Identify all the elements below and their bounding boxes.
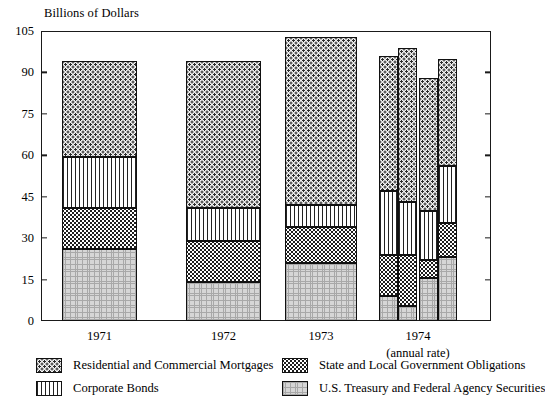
y-axis-tick-mark-right: [485, 155, 491, 156]
state-local-segment[interactable]: [438, 223, 457, 258]
y-axis-tick-label: 105: [0, 24, 34, 39]
y-axis-tick-mark-right: [485, 237, 491, 238]
y-axis-tick-mark: [41, 113, 47, 114]
stacked-bar[interactable]: [438, 31, 457, 321]
state-local-segment[interactable]: [62, 208, 137, 249]
y-axis-tick-label: 0: [0, 314, 34, 329]
y-axis-tick-mark: [41, 196, 47, 197]
state-local-swatch-icon: [282, 358, 308, 373]
y-axis-tick-label: 15: [0, 272, 34, 287]
y-axis-tick-mark: [41, 155, 47, 156]
legend-label-state-local: State and Local Government Obligations: [319, 358, 525, 373]
mortgages-segment[interactable]: [62, 61, 137, 156]
corporate-bonds-segment[interactable]: [419, 211, 438, 261]
treasury-segment[interactable]: [419, 278, 438, 321]
treasury-segment[interactable]: [379, 296, 398, 321]
stacked-bar[interactable]: [379, 31, 398, 321]
y-axis-tick-mark: [41, 72, 47, 73]
mortgages-segment[interactable]: [398, 48, 417, 203]
x-axis-label: 1971: [87, 329, 112, 344]
treasury-segment[interactable]: [285, 263, 357, 321]
state-local-segment[interactable]: [285, 227, 357, 263]
treasury-segment[interactable]: [186, 282, 261, 321]
state-local-segment[interactable]: [398, 255, 417, 306]
stacked-bar[interactable]: [285, 31, 357, 321]
mortgages-segment[interactable]: [186, 61, 261, 207]
y-axis-tick-label: 75: [0, 106, 34, 121]
stacked-bar[interactable]: [186, 31, 261, 321]
y-axis-title: Billions of Dollars: [44, 6, 139, 21]
x-axis-label: 1973: [309, 329, 334, 344]
mortgages-segment[interactable]: [379, 56, 398, 191]
corporate-bonds-segment[interactable]: [62, 157, 137, 208]
y-axis-tick-mark-right: [485, 196, 491, 197]
corporate-bonds-segment[interactable]: [186, 208, 261, 241]
y-axis-tick-mark: [41, 279, 47, 280]
x-axis-label: 1972: [211, 329, 236, 344]
y-axis-tick-mark: [41, 237, 47, 238]
treasury-segment[interactable]: [438, 257, 457, 321]
y-axis-tick-mark-right: [485, 113, 491, 114]
mortgages-segment[interactable]: [438, 59, 457, 167]
corporate-bonds-segment[interactable]: [379, 191, 398, 255]
legend-item-corporate[interactable]: Corporate Bonds: [36, 381, 159, 396]
mortgages-swatch-icon: [36, 358, 62, 373]
treasury-swatch-icon: [282, 381, 308, 396]
x-axis-label: 1974: [406, 329, 431, 344]
corporate-bonds-segment[interactable]: [438, 166, 457, 223]
legend-label-mortgages: Residential and Commercial Mortgages: [73, 358, 273, 373]
state-local-segment[interactable]: [186, 241, 261, 282]
legend-row-2: Corporate Bonds U.S. Treasury and Federa…: [36, 381, 496, 404]
corporate-swatch-icon: [36, 381, 62, 396]
legend-item-state-local[interactable]: State and Local Government Obligations: [282, 358, 525, 373]
legend-label-treasury: U.S. Treasury and Federal Agency Securit…: [319, 381, 545, 396]
y-axis-tick-label: 90: [0, 65, 34, 80]
stacked-bar[interactable]: [419, 31, 438, 321]
mortgages-segment[interactable]: [419, 78, 438, 211]
y-axis-tick-label: 60: [0, 148, 34, 163]
legend-label-corporate: Corporate Bonds: [73, 381, 159, 396]
legend-item-mortgages[interactable]: Residential and Commercial Mortgages: [36, 358, 273, 373]
state-local-segment[interactable]: [419, 260, 438, 278]
legend-item-treasury[interactable]: U.S. Treasury and Federal Agency Securit…: [282, 381, 545, 396]
corporate-bonds-segment[interactable]: [398, 202, 417, 254]
y-axis-tick-label: 30: [0, 231, 34, 246]
state-local-segment[interactable]: [379, 255, 398, 296]
corporate-bonds-segment[interactable]: [285, 205, 357, 227]
y-axis-tick-mark-right: [485, 279, 491, 280]
y-axis-tick-label: 45: [0, 189, 34, 204]
treasury-segment[interactable]: [398, 306, 417, 321]
mortgages-segment[interactable]: [285, 37, 357, 205]
legend-row-1: Residential and Commercial Mortgages Sta…: [36, 358, 496, 381]
chart-legend: Residential and Commercial Mortgages Sta…: [36, 358, 496, 404]
y-axis-tick-mark-right: [485, 72, 491, 73]
treasury-segment[interactable]: [62, 249, 137, 321]
stacked-bar[interactable]: [62, 31, 137, 321]
stacked-bar[interactable]: [398, 31, 417, 321]
